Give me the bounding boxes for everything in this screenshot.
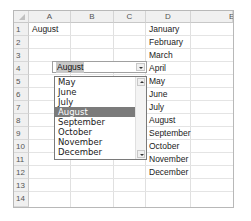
row-header-7[interactable]: 7: [14, 101, 29, 114]
scroll-down-button[interactable]: [137, 150, 145, 158]
row-header-4[interactable]: 4: [14, 62, 29, 75]
row-header-2[interactable]: 2: [14, 36, 29, 49]
combobox-value[interactable]: August: [56, 62, 84, 73]
cell-d6[interactable]: June: [149, 88, 167, 101]
row-header-1[interactable]: 1: [14, 23, 29, 36]
list-item-october[interactable]: October: [55, 127, 135, 137]
column-header-b[interactable]: B: [71, 11, 114, 23]
cell-d11[interactable]: November: [149, 153, 188, 166]
cell-d12[interactable]: December: [149, 166, 188, 179]
cell-d8[interactable]: August: [149, 114, 175, 127]
row-header-5[interactable]: 5: [14, 75, 29, 88]
column-header-a[interactable]: A: [29, 11, 71, 23]
column-header-e[interactable]: E: [191, 11, 233, 23]
cell-d4[interactable]: April: [149, 62, 166, 75]
select-all-corner[interactable]: [14, 11, 29, 23]
list-item-november[interactable]: November: [55, 137, 135, 147]
dropdown-scrollbar[interactable]: [135, 77, 146, 159]
cell-d3[interactable]: March: [149, 49, 173, 62]
column-header-c[interactable]: C: [114, 11, 146, 23]
list-item-august-selected[interactable]: August: [55, 107, 135, 117]
row-header-3[interactable]: 3: [14, 49, 29, 62]
cell-a1[interactable]: August: [32, 23, 58, 36]
row-header-13[interactable]: 13: [14, 179, 29, 192]
cell-d7[interactable]: July: [149, 101, 164, 114]
cell-d5[interactable]: May: [149, 75, 165, 88]
combobox-dropdown-button[interactable]: [136, 63, 145, 71]
cell-d10[interactable]: October: [149, 140, 179, 153]
cell-d1[interactable]: January: [149, 23, 179, 36]
row-header-6[interactable]: 6: [14, 88, 29, 101]
chevron-down-icon: [140, 154, 144, 156]
list-item-september[interactable]: September: [55, 117, 135, 127]
list-item-june[interactable]: June: [55, 87, 135, 97]
row-header-9[interactable]: 9: [14, 127, 29, 140]
month-combobox[interactable]: August: [52, 61, 147, 73]
combobox-dropdown-list[interactable]: May June July August September October N…: [54, 76, 147, 160]
row-header-11[interactable]: 11: [14, 153, 29, 166]
row-header-10[interactable]: 10: [14, 140, 29, 153]
cell-d2[interactable]: February: [149, 36, 183, 49]
list-item-july[interactable]: July: [55, 97, 135, 107]
cell-d9[interactable]: September: [149, 127, 191, 140]
chevron-down-icon: [139, 67, 143, 69]
column-header-d[interactable]: D: [146, 11, 191, 23]
chevron-up-icon: [140, 81, 144, 83]
corner-triangle-icon: [19, 14, 25, 20]
list-item-may[interactable]: May: [55, 77, 135, 87]
row-header-14[interactable]: 14: [14, 192, 29, 207]
list-item-december[interactable]: December: [55, 147, 135, 157]
scroll-up-button[interactable]: [137, 78, 145, 86]
row-header-12[interactable]: 12: [14, 166, 29, 179]
row-header-8[interactable]: 8: [14, 114, 29, 127]
